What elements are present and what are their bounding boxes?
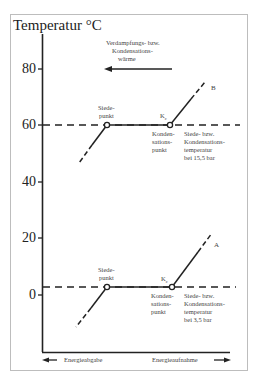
curve-b-label: B: [211, 85, 216, 92]
curve-a-condensation-point-marker: [169, 284, 174, 289]
curve-b-boiling-point-label: Siede- punkt: [98, 104, 115, 120]
curve-b-condensation-point-label: Konden- sations- punkt: [152, 130, 175, 154]
curve-a-cond-line2: sations-: [151, 300, 174, 308]
curve-a-vapor-dashed: [198, 233, 212, 252]
energy-release-label: Energieabgabe: [64, 356, 103, 364]
curve-b-vapor-solid: [170, 99, 191, 125]
energy-absorb-label: Energieaufnahme: [152, 356, 198, 364]
curve-a-temperature-note: Siede- bzw. Kondensations- temperatur be…: [184, 292, 225, 324]
curve-b-k-subscript: c: [165, 116, 167, 121]
curve-b-note-line2: Kondensations-: [184, 138, 225, 146]
curve-a-cond-line3: punkt: [151, 308, 174, 316]
curve-b-condensation-marker: Kc: [160, 112, 167, 123]
curve-a-vapor-solid: [172, 252, 198, 287]
curve-b-boiling-line1: Siede-: [98, 104, 115, 112]
y-axis-title: Temperatur °C: [13, 18, 102, 33]
curve-b-condensation-point-marker: [167, 122, 172, 127]
curve-a-liquid-dashed: [76, 308, 91, 327]
curve-b-note-line4: bei 15,5 bar: [184, 154, 225, 162]
curve-a-condensation-point-label: Konden- sations- punkt: [151, 292, 174, 316]
curve-b-cond-line1: Konden-: [152, 130, 175, 138]
curve-b-boiling-point-marker: [104, 122, 109, 127]
curve-a-boiling-point-label: Siede- punkt: [98, 266, 115, 282]
curve-b-liquid-dashed: [79, 145, 92, 163]
curve-a-liquid-solid: [91, 287, 107, 308]
curve-b-temperature-note: Siede- bzw. Kondensations- temperatur be…: [184, 130, 225, 162]
curve-a-cond-line1: Konden-: [151, 292, 174, 300]
heat-annotation-line1: Verdampfungs- bzw.: [106, 39, 160, 47]
curve-a-boiling-point-marker: [104, 284, 109, 289]
energy-release-arrow-head: [42, 358, 49, 363]
curve-b-liquid-solid: [92, 125, 107, 145]
curve-a-note-line1: Siede- bzw.: [184, 292, 225, 300]
curve-a-label: A: [214, 242, 219, 249]
curve-a-k-subscript: c: [166, 279, 168, 284]
curve-a-boiling-line1: Siede-: [98, 266, 115, 274]
curve-a-condensation-marker: Kc: [161, 275, 168, 286]
y-tick-label-0: 0: [14, 288, 36, 302]
curve-b-cond-line3: punkt: [152, 146, 175, 154]
y-tick-label-20: 20: [14, 231, 36, 245]
heat-annotation: Verdampfungs- bzw. Kondensations- wärme: [106, 39, 160, 63]
curve-b-note-line1: Siede- bzw.: [184, 130, 225, 138]
curve-a-note-line2: Kondensations-: [184, 300, 225, 308]
curve-b-vapor-dashed: [191, 82, 205, 99]
curve-b-boiling-line2: punkt: [98, 112, 115, 120]
y-tick-label-80: 80: [14, 62, 36, 76]
curve-a-boiling-line2: punkt: [98, 274, 115, 282]
curve-a-note-line4: bei 3,5 bar: [184, 316, 225, 324]
curve-b-note-line3: temperatur: [184, 146, 225, 154]
y-tick-label-40: 40: [14, 175, 36, 189]
heat-annotation-line2: Kondensations-: [106, 47, 160, 55]
heat-annotation-line3: wärme: [106, 55, 160, 63]
energy-absorb-arrow-head: [224, 358, 231, 363]
curve-b-cond-line2: sations-: [152, 138, 175, 146]
heat-arrow-head: [104, 66, 112, 72]
curve-a-note-line3: temperatur: [184, 308, 225, 316]
y-tick-label-60: 60: [14, 118, 36, 132]
